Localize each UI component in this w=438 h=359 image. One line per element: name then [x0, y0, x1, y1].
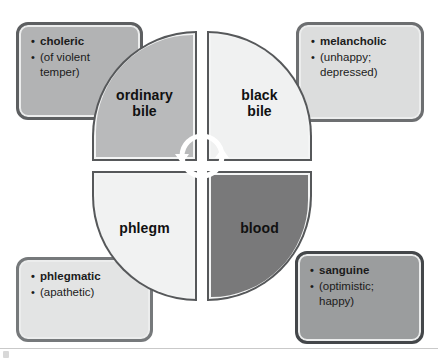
callout-box-sanguine: sanguine (optimistic; happy) — [295, 251, 424, 344]
wheel-quadrant-phlegm: phlegm — [92, 171, 197, 301]
callout-sanguine-term: sanguine — [310, 263, 411, 279]
callout-melancholic-term: melancholic — [311, 34, 411, 50]
wheel-quadrant-black-bile: black bile — [207, 31, 312, 161]
wheel-quadrant-black-bile-label: black bile — [209, 87, 310, 119]
wheel-quadrant-ordinary-bile: ordinary bile — [92, 31, 197, 161]
page-divider-rule — [0, 348, 438, 349]
wheel-quadrant-black-bile-label-line1: black — [241, 87, 277, 103]
humours-diagram: choleric (of violent temper) melancholic… — [0, 0, 438, 359]
wheel-quadrant-phlegm-label: phlegm — [94, 220, 195, 236]
wheel-quadrant-ordinary-bile-label: ordinary bile — [94, 87, 195, 119]
callout-sanguine-gloss-line2: happy) — [310, 294, 411, 310]
callout-melancholic-gloss-line2: depressed) — [311, 65, 411, 81]
callout-melancholic-gloss-line1: (unhappy; — [311, 50, 411, 66]
callout-sanguine-gloss-line1: (optimistic; — [310, 279, 411, 295]
page-corner-mark — [3, 351, 9, 358]
wheel-quadrant-blood: blood — [207, 171, 312, 301]
wheel-quadrant-ordinary-bile-label-line2: bile — [132, 103, 157, 119]
wheel-quadrant-ordinary-bile-label-line1: ordinary — [116, 87, 173, 103]
humours-wheel: ordinary bile black bile phlegm blood — [92, 31, 312, 301]
wheel-quadrant-blood-label: blood — [209, 220, 310, 236]
wheel-quadrant-black-bile-label-line2: bile — [247, 103, 272, 119]
callout-box-melancholic: melancholic (unhappy; depressed) — [296, 22, 424, 122]
